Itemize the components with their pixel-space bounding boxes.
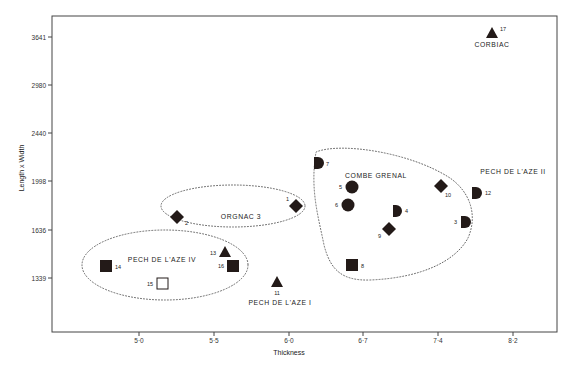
half-circle-marker-4 [393, 205, 402, 217]
triangle-marker-17 [486, 27, 498, 38]
group-label-pech1: PECH DE L'AZE I [248, 299, 311, 306]
square-marker-16 [227, 260, 239, 272]
x-axis: 5·0 5·5 6·0 6·7 7·4 8·2 Thickness [134, 332, 518, 356]
svg-text:6: 6 [335, 202, 338, 208]
svg-text:17: 17 [500, 26, 506, 32]
x-tick-label: 6·7 [358, 337, 368, 344]
x-tick-label: 8·2 [508, 337, 518, 344]
half-circle-marker-3 [461, 216, 471, 228]
orgnac-outline [161, 185, 305, 227]
svg-text:3: 3 [454, 219, 457, 225]
group-label-orgnac: ORGNAC 3 [221, 213, 261, 220]
y-tick-label: 1636 [32, 227, 47, 234]
half-circle-marker-7 [314, 157, 324, 169]
x-tick-label: 5·5 [209, 337, 219, 344]
x-tick-label: 7·4 [433, 337, 443, 344]
y-tick-label: 1998 [32, 178, 47, 185]
square-marker-14 [100, 260, 112, 272]
group-label-pech4: PECH DE L'AZE IV [128, 256, 196, 263]
triangle-marker-11 [271, 276, 283, 287]
circle-marker-6 [342, 199, 355, 212]
half-circle-marker-12 [472, 187, 482, 199]
square-marker-8 [346, 259, 358, 271]
triangle-marker-13 [219, 246, 231, 257]
svg-text:13: 13 [210, 250, 216, 256]
svg-text:8: 8 [361, 263, 364, 269]
x-tick-label: 6·0 [284, 337, 294, 344]
y-tick-label: 2980 [32, 82, 47, 89]
svg-text:16: 16 [218, 263, 224, 269]
y-tick-label: 3641 [32, 34, 47, 41]
y-axis-title: Length x Width [18, 145, 26, 192]
y-axis: 3641 2980 2440 1998 1636 1339 Length x W… [18, 34, 52, 282]
circle-marker-5 [346, 181, 359, 194]
y-tick-label: 2440 [32, 130, 47, 137]
svg-text:4: 4 [405, 208, 408, 214]
svg-text:9: 9 [378, 233, 381, 239]
diamond-marker-1 [289, 199, 303, 213]
group-label-pech2: PECH DE L'AZE II [480, 168, 546, 175]
svg-text:1: 1 [286, 196, 289, 202]
svg-text:15: 15 [147, 281, 153, 287]
diamond-marker-2 [170, 210, 184, 224]
group-label-combe-grenal: COMBE GRENAL [345, 172, 407, 179]
diamond-marker-10 [434, 179, 448, 193]
group-label-corbiac: CORBIAC [474, 41, 509, 48]
svg-text:12: 12 [485, 190, 491, 196]
x-tick-label: 5·0 [134, 337, 144, 344]
svg-text:7: 7 [326, 161, 329, 167]
svg-text:11: 11 [274, 290, 280, 296]
svg-text:5: 5 [339, 184, 342, 190]
svg-text:2: 2 [185, 220, 188, 226]
open-square-marker-15 [157, 278, 168, 289]
x-axis-title: Thickness [273, 349, 305, 356]
svg-text:14: 14 [115, 264, 121, 270]
scatter-chart: 3641 2980 2440 1998 1636 1339 Length x W… [0, 0, 572, 366]
svg-text:10: 10 [445, 192, 451, 198]
diamond-marker-9 [382, 222, 396, 236]
y-tick-label: 1339 [32, 275, 47, 282]
